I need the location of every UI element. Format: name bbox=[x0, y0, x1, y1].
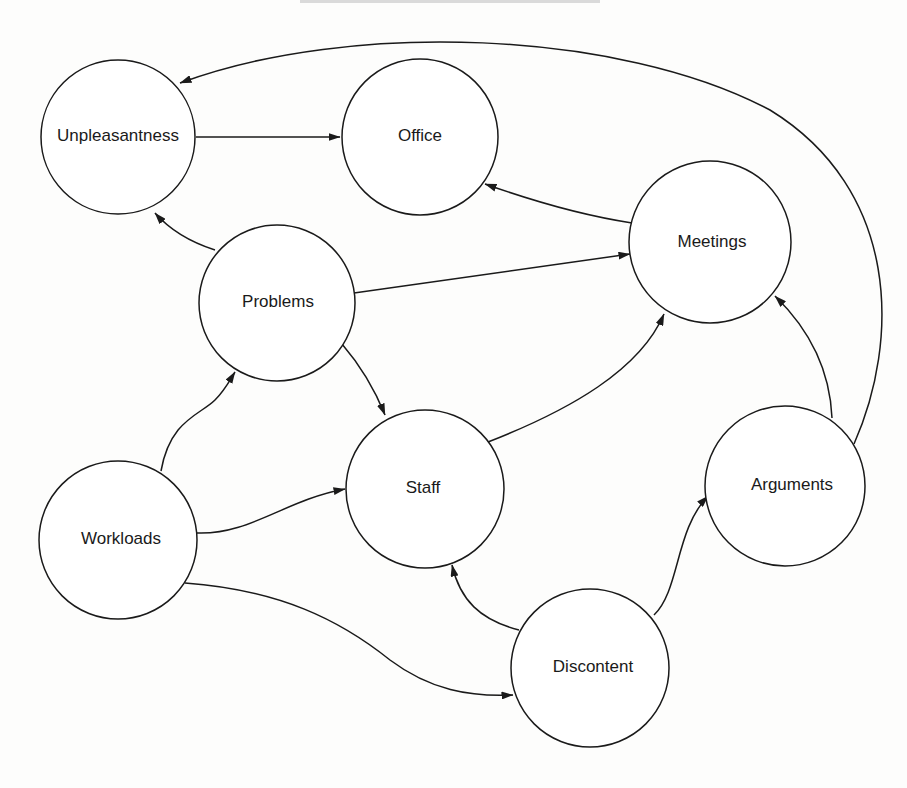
node-workloads: Workloads bbox=[39, 461, 197, 619]
node-label-meetings: Meetings bbox=[678, 232, 747, 251]
node-meetings: Meetings bbox=[629, 161, 791, 323]
node-label-problems: Problems bbox=[242, 292, 314, 311]
edge-problems-to-unpleasantness bbox=[155, 213, 215, 250]
edge-workloads-to-problems bbox=[161, 372, 235, 471]
node-label-staff: Staff bbox=[406, 478, 441, 497]
edge-problems-to-staff bbox=[342, 344, 385, 415]
node-staff: Staff bbox=[346, 410, 504, 568]
node-label-unpleasantness: Unpleasantness bbox=[57, 126, 179, 145]
edge-staff-to-meetings bbox=[488, 314, 664, 442]
edge-arguments-to-meetings bbox=[775, 296, 832, 418]
node-problems: Problems bbox=[199, 225, 355, 381]
node-discontent: Discontent bbox=[511, 589, 669, 747]
edge-discontent-to-staff bbox=[452, 565, 519, 630]
edge-discontent-to-arguments bbox=[654, 496, 708, 615]
edge-problems-to-meetings bbox=[354, 254, 630, 293]
node-label-workloads: Workloads bbox=[81, 529, 161, 548]
node-office: Office bbox=[342, 59, 498, 215]
edge-workloads-to-staff bbox=[197, 489, 345, 533]
node-unpleasantness: Unpleasantness bbox=[41, 60, 195, 214]
causal-diagram: Unpleasantness Office Meetings Problems … bbox=[0, 0, 907, 788]
edge-workloads-to-discontent bbox=[185, 583, 513, 695]
node-label-arguments: Arguments bbox=[751, 475, 833, 494]
node-label-office: Office bbox=[398, 126, 442, 145]
edge-meetings-to-office bbox=[485, 184, 632, 223]
node-label-discontent: Discontent bbox=[553, 657, 634, 676]
node-arguments: Arguments bbox=[705, 406, 865, 566]
